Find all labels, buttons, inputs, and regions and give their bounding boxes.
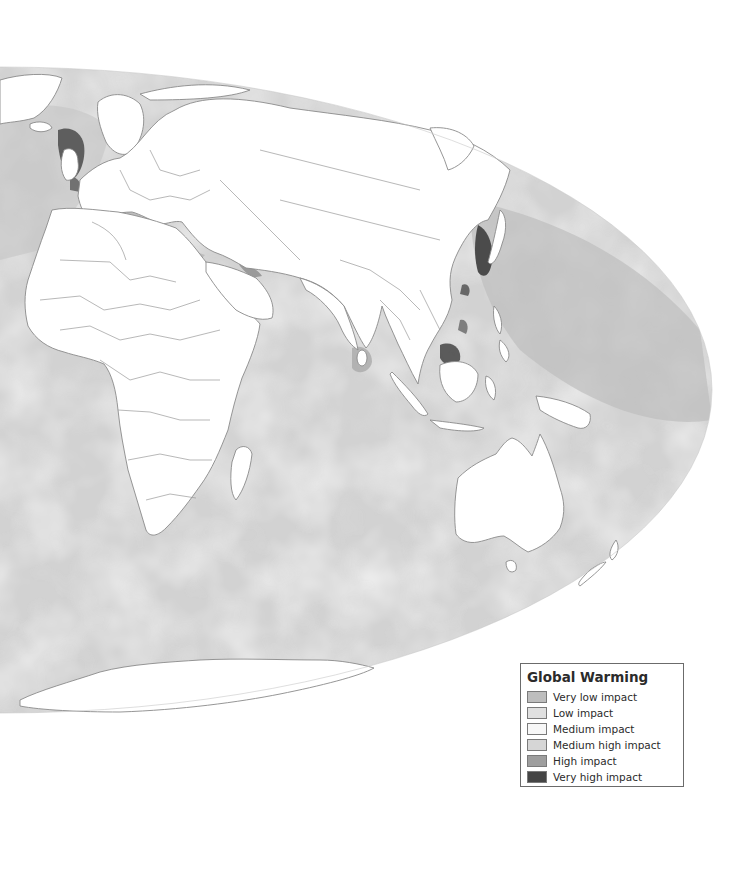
legend-item-high: High impact	[527, 753, 677, 769]
legend-label: High impact	[553, 755, 617, 767]
swatch-very-high	[527, 771, 547, 783]
legend-item-low: Low impact	[527, 705, 677, 721]
swatch-very-low	[527, 691, 547, 703]
swatch-medium	[527, 723, 547, 735]
legend-item-medium-high: Medium high impact	[527, 737, 677, 753]
legend-label: Very low impact	[553, 691, 637, 703]
swatch-low	[527, 707, 547, 719]
legend-label: Very high impact	[553, 771, 642, 783]
legend-label: Medium high impact	[553, 739, 661, 751]
legend-label: Medium impact	[553, 723, 634, 735]
legend-item-medium: Medium impact	[527, 721, 677, 737]
legend-item-very-high: Very high impact	[527, 769, 677, 785]
sri-lanka	[357, 350, 367, 366]
united-kingdom	[61, 149, 78, 181]
legend-title: Global Warming	[527, 668, 677, 686]
swatch-medium-high	[527, 739, 547, 751]
map-legend: Global Warming Very low impact Low impac…	[520, 663, 684, 787]
legend-label: Low impact	[553, 707, 613, 719]
swatch-high	[527, 755, 547, 767]
legend-item-very-low: Very low impact	[527, 689, 677, 705]
